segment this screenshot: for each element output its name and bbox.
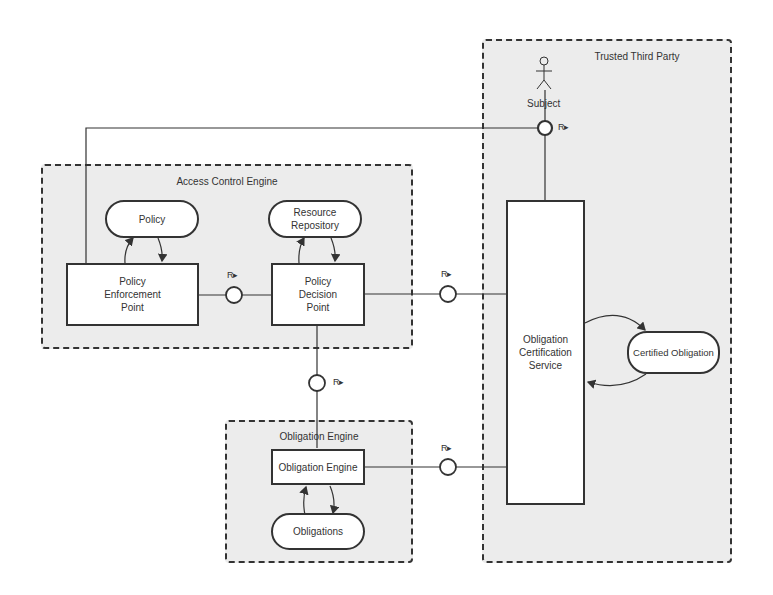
oe-ocs-interface-label: R▸	[441, 443, 453, 453]
policy-enforcement-point-node: Policy Enforcement Point	[66, 263, 199, 326]
obligations-node: Obligations	[271, 513, 365, 550]
pep-pdp-interface-label: R▸	[227, 270, 239, 280]
pdp-ocs-interface-circle	[440, 286, 456, 302]
subject-interface-label: R▸	[558, 122, 570, 132]
pdp-oe-interface-label: R▸	[333, 377, 345, 387]
subject-interface-circle	[538, 121, 552, 135]
policy-decision-point-node: Policy Decision Point	[271, 263, 365, 326]
certified-obligation-label: Certified Obligation	[633, 346, 714, 359]
pdp-label: Policy Decision Point	[299, 275, 337, 314]
pep-label: Policy Enforcement Point	[104, 275, 161, 314]
certified-obligation-node: Certified Obligation	[627, 331, 720, 374]
oe-ocs-interface-circle	[440, 459, 456, 475]
architecture-diagram: Trusted Third Party Access Control Engin…	[0, 0, 773, 595]
pep-pdp-interface-circle	[226, 287, 242, 303]
ocs-label: Obligation Certification Service	[519, 333, 572, 372]
resource-repository-node: Resource Repository	[268, 200, 362, 238]
obligations-label: Obligations	[293, 525, 343, 538]
policy-node: Policy	[105, 200, 199, 238]
pdp-oe-interface-circle	[309, 375, 325, 391]
obligation-engine-label: Obligation Engine	[279, 461, 358, 474]
resource-repository-label: Resource Repository	[291, 206, 339, 232]
policy-label: Policy	[139, 213, 166, 226]
obligation-certification-service-node: Obligation Certification Service	[506, 200, 585, 505]
subject-actor-icon	[536, 57, 552, 89]
subject-label: Subject	[527, 98, 560, 109]
pdp-ocs-interface-label: R▸	[441, 269, 453, 279]
obligation-engine-node: Obligation Engine	[271, 449, 365, 485]
